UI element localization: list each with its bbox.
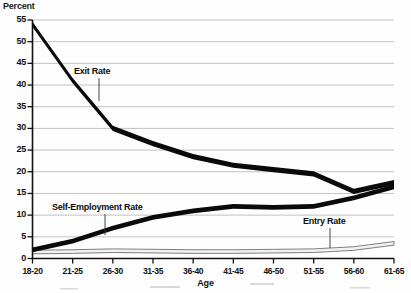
annotation-entry-rate: Entry Rate [303, 216, 346, 226]
x-tick-label: 26-30 [91, 266, 135, 276]
y-tick-label: 45 [4, 57, 26, 67]
plot-canvas [0, 0, 411, 293]
y-tick-label: 30 [4, 122, 26, 132]
y-tick-label: 20 [4, 166, 26, 176]
x-tick-label: 31-35 [131, 266, 175, 276]
x-tick-label: 61-65 [372, 266, 411, 276]
x-tick-label: 41-45 [211, 266, 255, 276]
y-tick-label: 5 [4, 231, 26, 241]
chart-figure: Percent 0510152025303540455055 18-2021-2… [0, 0, 411, 293]
y-tick-label: 35 [4, 101, 26, 111]
y-tick-label: 40 [4, 79, 26, 89]
y-tick-label: 50 [4, 36, 26, 46]
x-tick-label: 46-50 [252, 266, 296, 276]
x-tick-label: 51-55 [292, 266, 336, 276]
x-tick-label: 18-20 [11, 266, 55, 276]
x-tick-label: 36-40 [171, 266, 215, 276]
y-tick-label: 25 [4, 144, 26, 154]
y-tick-label: 15 [4, 187, 26, 197]
x-tick-label: 21-25 [51, 266, 95, 276]
annotation-self-employment-rate: Self-Employment Rate [52, 202, 143, 212]
x-tick-label: 56-60 [332, 266, 376, 276]
x-axis-title: Age [0, 278, 411, 288]
annotation-exit-rate: Exit Rate [74, 66, 110, 76]
y-tick-label: 55 [4, 14, 26, 24]
y-tick-label: 10 [4, 209, 26, 219]
y-tick-label: 0 [4, 253, 26, 263]
